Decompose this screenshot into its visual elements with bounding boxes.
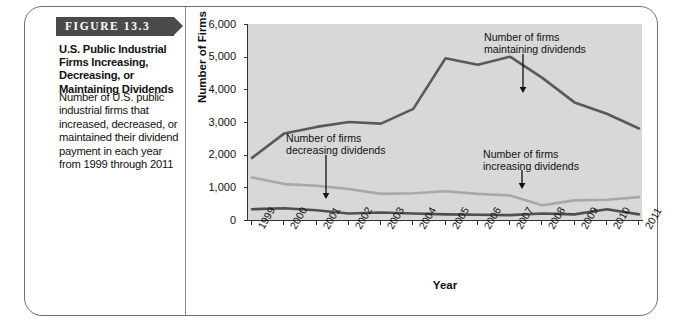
annotation-label-increasing: Number of firms increasing dividends: [483, 148, 579, 172]
x-tick-mark: [348, 220, 349, 225]
y-tick-label: 2,000: [192, 149, 236, 160]
annotation-arrow-decreasing: [320, 155, 332, 201]
x-tick-mark: [477, 220, 478, 225]
x-tick-mark: [283, 220, 284, 225]
x-tick-mark: [316, 220, 317, 225]
annotation-label-maintaining: Number of firms maintaining dividends: [484, 31, 586, 55]
x-tick-mark: [638, 220, 639, 225]
x-tick-mark: [380, 220, 381, 225]
x-tick-mark: [412, 220, 413, 225]
banner-arrow-icon: [174, 17, 183, 35]
y-tick-label: 1,000: [192, 182, 236, 193]
figure-caption-title: U.S. Public Industrial Firms Increasing,…: [59, 43, 181, 96]
x-tick-mark: [606, 220, 607, 225]
y-tick-label: 4,000: [192, 84, 236, 95]
x-tick-mark: [445, 220, 446, 225]
annotation-label-decreasing: Number of firms decreasing dividends: [286, 132, 386, 156]
figure-caption-body: Number of U.S. public industrial firms t…: [59, 91, 183, 171]
y-tick-label: 5,000: [192, 51, 236, 62]
x-tick-mark: [251, 220, 252, 225]
annotation-arrow-maintaining: [517, 54, 529, 95]
x-axis-title: Year: [247, 279, 643, 291]
x-tick-mark: [509, 220, 510, 225]
y-axis-ticks: 01,0002,0003,0004,0005,0006,000: [192, 7, 236, 315]
x-tick-label: 2011: [642, 205, 664, 231]
figure-number-banner: FIGURE 13.3: [56, 17, 174, 36]
y-tick-label: 3,000: [192, 117, 236, 128]
figure-caption-column: FIGURE 13.3 U.S. Public Industrial Firms…: [50, 7, 186, 315]
y-tick-label: 0: [192, 215, 236, 226]
figure-card: FIGURE 13.3 U.S. Public Industrial Firms…: [24, 6, 658, 316]
series-line-decreasing: [252, 208, 639, 215]
y-tick-label: 6,000: [192, 19, 236, 30]
series-line-increasing: [252, 178, 639, 206]
annotation-arrow-increasing: [516, 170, 528, 191]
chart-area: Number of Firms 01,0002,0003,0004,0005,0…: [186, 7, 658, 315]
x-tick-mark: [574, 220, 575, 225]
x-tick-mark: [541, 220, 542, 225]
